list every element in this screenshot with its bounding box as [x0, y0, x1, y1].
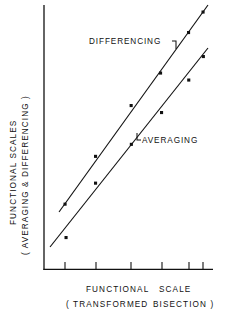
data-point [187, 79, 190, 82]
x-axis-label-line2-left: ( TRANSFORMED [66, 300, 148, 309]
x-axis-label-line2-right: BISECTION ) [153, 300, 214, 309]
data-point [64, 203, 67, 206]
x-axis-label-line1-right: SCALE [159, 285, 191, 294]
data-point [65, 236, 68, 239]
y-axis-label-line2: ( AVERAGING & DIFFERENCING ) [21, 95, 30, 255]
data-point [187, 31, 190, 34]
differencing-series-label: DIFFERENCING [89, 37, 161, 46]
x-axis-ticks [65, 262, 203, 269]
data-point [159, 72, 162, 75]
scatter-plot: DIFFERENCING AVERAGING FUNCTIONAL SCALES… [0, 0, 227, 317]
data-point [160, 111, 163, 114]
data-point [130, 104, 133, 107]
differencing-leader-line [172, 41, 176, 49]
averaging-series-label: AVERAGING [142, 136, 198, 145]
figure-container: DIFFERENCING AVERAGING FUNCTIONAL SCALES… [0, 0, 227, 317]
x-axis-label-line1-left: FUNCTIONAL [86, 285, 149, 294]
y-axis-label-line1: FUNCTIONAL SCALES [9, 120, 18, 225]
data-point [202, 55, 205, 58]
data-point [130, 143, 133, 146]
data-point [94, 182, 97, 185]
data-point [202, 11, 205, 14]
averaging-fit-line [50, 48, 208, 247]
averaging-data-points [65, 55, 205, 239]
data-point [94, 155, 97, 158]
